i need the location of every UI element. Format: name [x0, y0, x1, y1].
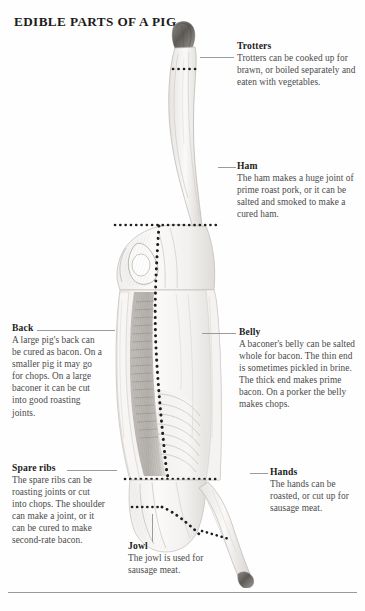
annotation-hands-body: The hands can be roasted, or cut up for …	[270, 478, 362, 514]
annotation-jowl-heading: Jowl	[128, 540, 220, 551]
trotter-and-leg	[169, 22, 202, 228]
annotation-belly: Belly A baconer's belly can be salted wh…	[239, 326, 357, 411]
annotation-hands-heading: Hands	[270, 466, 362, 477]
annotation-trotters: Trotters Trotters can be cooked up for b…	[237, 40, 357, 88]
annotation-belly-body: A baconer's belly can be salted whole fo…	[239, 338, 357, 410]
bottom-divider	[8, 592, 357, 593]
ham-section	[117, 225, 215, 290]
leader-line-ham	[218, 167, 236, 168]
annotation-ham-body: The ham makes a huge joint of prime roas…	[237, 172, 357, 220]
annotation-spare-ribs: Spare ribs The spare ribs can be roastin…	[12, 462, 106, 547]
annotation-hands: Hands The hands can be roasted, or cut u…	[270, 466, 362, 514]
annotation-trotters-body: Trotters can be cooked up for brawn, or …	[237, 52, 357, 88]
annotation-spare-ribs-heading: Spare ribs	[12, 462, 106, 473]
annotation-belly-heading: Belly	[239, 326, 357, 337]
annotation-back: Back A large pig's back can be cured as …	[12, 322, 104, 419]
annotation-ham-heading: Ham	[237, 160, 357, 171]
annotation-back-heading: Back	[12, 322, 104, 333]
leader-line-belly	[202, 333, 236, 334]
pig-carcass-illustration	[96, 18, 256, 588]
annotation-spare-ribs-body: The spare ribs can be roasting joints or…	[12, 474, 106, 546]
leader-line-trotters	[200, 57, 234, 58]
annotation-back-body: A large pig's back can be cured as bacon…	[12, 334, 104, 419]
annotation-trotters-heading: Trotters	[237, 40, 357, 51]
annotation-jowl: Jowl The jowl is used for sausage meat.	[128, 540, 220, 576]
loin-and-ribs-section	[116, 290, 221, 480]
diagram-page: EDIBLE PARTS OF A PIG	[0, 0, 365, 611]
leader-line-jowl	[152, 514, 153, 542]
leader-line-hands	[250, 473, 268, 474]
annotation-jowl-body: The jowl is used for sausage meat.	[128, 552, 220, 576]
annotation-ham: Ham The ham makes a huge joint of prime …	[237, 160, 357, 220]
